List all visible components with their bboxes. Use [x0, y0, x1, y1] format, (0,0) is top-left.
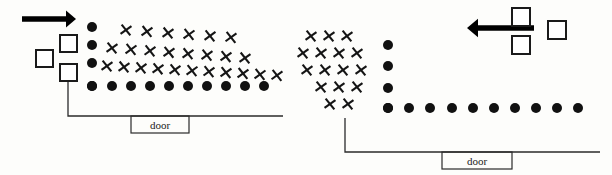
- x-mark-stroke: [119, 63, 130, 71]
- door-opening: door: [442, 152, 512, 169]
- x-mark-stroke: [298, 49, 309, 57]
- x-mark-stroke: [338, 66, 349, 74]
- wall-path: [68, 82, 283, 116]
- occupant-dot: [107, 81, 117, 91]
- wall-line: [345, 118, 600, 152]
- square-agent: [60, 35, 77, 52]
- occupant-dot: [510, 103, 520, 113]
- x-mark-stroke: [302, 66, 313, 74]
- x-mark-stroke: [170, 66, 181, 74]
- occupant-dot: [87, 81, 97, 91]
- x-mark-stroke: [121, 26, 132, 34]
- x-mark-stroke: [187, 67, 198, 75]
- square-agent: [548, 21, 566, 39]
- occupant-dot: [383, 61, 393, 71]
- x-mark-stroke: [356, 66, 367, 74]
- x-mark-stroke: [306, 32, 317, 40]
- x-mark-stroke: [202, 51, 213, 59]
- x-mark-stroke: [352, 49, 363, 57]
- x-mark-stroke: [272, 71, 283, 79]
- x-mark-stroke: [205, 32, 216, 40]
- x-mark-group: [298, 31, 367, 110]
- x-mark-stroke: [164, 48, 175, 56]
- crowd-flow-diagram: door door: [0, 0, 612, 175]
- occupant-dot: [468, 103, 478, 113]
- square-agent-group: [36, 35, 77, 81]
- occupant-dot: [183, 81, 193, 91]
- occupant-dot: [240, 81, 250, 91]
- x-mark-stroke: [153, 65, 164, 73]
- x-mark-stroke: [334, 49, 345, 57]
- diagram-canvas: door door: [0, 0, 612, 175]
- wall-path: [345, 118, 600, 152]
- occupant-dot: [425, 103, 435, 113]
- occupant-dot: [489, 103, 499, 113]
- left-room-diagram: door: [22, 11, 283, 134]
- occupant-dot: [383, 103, 393, 113]
- x-mark-stroke: [163, 29, 174, 37]
- door-label: door: [467, 155, 488, 167]
- inflow-arrow: [22, 11, 76, 28]
- door-label: door: [150, 119, 171, 131]
- x-mark-group: [102, 25, 283, 81]
- x-mark-stroke: [352, 83, 363, 91]
- x-mark-stroke: [102, 62, 113, 70]
- occupant-dot: [87, 40, 97, 50]
- x-mark-stroke: [226, 33, 237, 41]
- occupant-dot: [552, 103, 562, 113]
- square-agent-group: [512, 8, 566, 54]
- x-mark-stroke: [316, 49, 327, 57]
- door-opening: door: [131, 116, 189, 133]
- x-mark-stroke: [184, 31, 195, 39]
- occupant-dot: [87, 58, 97, 68]
- square-agent: [36, 50, 53, 67]
- x-mark-stroke: [142, 28, 153, 36]
- square-agent: [512, 8, 530, 26]
- occupant-dot: [145, 81, 155, 91]
- x-mark-stroke: [325, 100, 336, 108]
- occupant-dot: [87, 22, 97, 32]
- occupant-dot: [126, 81, 136, 91]
- occupant-dot-group: [87, 22, 269, 91]
- x-mark-stroke: [343, 100, 354, 108]
- occupant-dot: [531, 103, 541, 113]
- x-mark-stroke: [342, 32, 353, 40]
- occupant-dot: [447, 103, 457, 113]
- square-agent: [512, 36, 530, 54]
- occupant-dot: [383, 40, 393, 50]
- x-mark-stroke: [316, 83, 327, 91]
- x-mark-stroke: [136, 64, 147, 72]
- square-agent: [60, 64, 77, 81]
- occupant-dot: [164, 81, 174, 91]
- x-mark-stroke: [320, 66, 331, 74]
- x-mark-stroke: [255, 71, 266, 79]
- occupant-dot-group: [383, 40, 583, 113]
- arrow-head: [467, 19, 478, 38]
- x-mark-stroke: [221, 69, 232, 77]
- x-mark-stroke: [183, 50, 194, 58]
- x-mark-stroke: [240, 54, 251, 62]
- x-mark-stroke: [126, 46, 137, 54]
- x-mark-stroke: [238, 70, 249, 78]
- occupant-dot: [259, 81, 269, 91]
- right-room-diagram: door: [298, 8, 600, 169]
- x-mark-stroke: [107, 44, 118, 52]
- x-mark-stroke: [334, 83, 345, 91]
- occupant-dot: [202, 81, 212, 91]
- x-mark-stroke: [204, 68, 215, 76]
- occupant-dot: [221, 81, 231, 91]
- x-mark-stroke: [145, 47, 156, 55]
- occupant-dot: [404, 103, 414, 113]
- arrow-head: [66, 11, 76, 28]
- wall-line: [68, 82, 283, 116]
- x-mark-stroke: [324, 32, 335, 40]
- occupant-dot: [573, 103, 583, 113]
- x-mark-stroke: [221, 53, 232, 61]
- occupant-dot: [383, 83, 393, 93]
